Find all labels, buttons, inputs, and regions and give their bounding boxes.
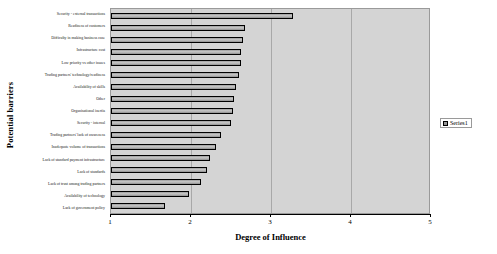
bar-row (111, 141, 429, 153)
bar[interactable] (111, 132, 221, 138)
category-label: Security - internal (18, 117, 108, 129)
x-axis-tick (430, 214, 431, 217)
category-label: Security - external transactions (18, 8, 108, 20)
category-label: Low priority vs other issues (18, 57, 108, 69)
bar-row (111, 164, 429, 176)
category-label-list: Security - external transactionsReadines… (18, 8, 108, 214)
bar-row (111, 176, 429, 188)
bar[interactable] (111, 37, 243, 43)
bar-row (111, 153, 429, 165)
y-axis-title-label: Potential barriers (5, 82, 15, 148)
x-axis-tick-label: 1 (100, 218, 120, 226)
y-axis-title: Potential barriers (2, 0, 18, 230)
plot-area (110, 8, 430, 214)
bar-row (111, 188, 429, 200)
category-label: Lack of standard payment infrastructure (18, 154, 108, 166)
bar[interactable] (111, 96, 234, 102)
category-label: Lack of government policy (18, 202, 108, 214)
category-label: Difficulty in making business case (18, 32, 108, 44)
category-label: Infrastructure cost (18, 44, 108, 56)
bar-row (111, 58, 429, 70)
category-label: Readiness of customers (18, 20, 108, 32)
bar-chart: Potential barriers Security - external t… (0, 0, 497, 254)
bars-layer (111, 9, 429, 213)
bar-row (111, 10, 429, 22)
legend-label: Series1 (450, 120, 468, 126)
bar-row (111, 46, 429, 58)
x-axis-tick-label: 2 (180, 218, 200, 226)
chart-legend[interactable]: Series1 (440, 118, 472, 128)
category-label: Organisational inertia (18, 105, 108, 117)
bar[interactable] (111, 144, 216, 150)
bar[interactable] (111, 155, 210, 161)
x-axis-tick-label: 5 (420, 218, 440, 226)
x-axis-tick-label: 3 (260, 218, 280, 226)
bar-row (111, 105, 429, 117)
bar[interactable] (111, 72, 239, 78)
category-label: Availability of technology (18, 190, 108, 202)
x-axis-tick (110, 214, 111, 217)
bar-row (111, 81, 429, 93)
bar-row (111, 22, 429, 34)
category-label: Lack of standards (18, 166, 108, 178)
category-label: Trading partners' lack of awareness (18, 129, 108, 141)
category-label: Lack of trust among trading partners (18, 178, 108, 190)
bar[interactable] (111, 13, 293, 19)
category-label: Inadequate volume of transactions (18, 141, 108, 153)
bar[interactable] (111, 167, 207, 173)
x-axis-tick (190, 214, 191, 217)
x-axis-tick (350, 214, 351, 217)
legend-swatch-icon (443, 121, 448, 126)
bar[interactable] (111, 49, 241, 55)
bar-row (111, 93, 429, 105)
x-axis-tick-label: 4 (340, 218, 360, 226)
bar[interactable] (111, 60, 241, 66)
bar-row (111, 200, 429, 212)
bar-row (111, 34, 429, 46)
category-label: Trading partners' technology/readiness (18, 69, 108, 81)
bar[interactable] (111, 84, 236, 90)
category-label: Availability of skills (18, 81, 108, 93)
bar-row (111, 129, 429, 141)
x-axis-tick (270, 214, 271, 217)
bar-row (111, 69, 429, 81)
bar[interactable] (111, 203, 165, 209)
bar[interactable] (111, 120, 231, 126)
bar-row (111, 117, 429, 129)
category-label: Other (18, 93, 108, 105)
x-axis-title: Degree of Influence (110, 232, 431, 242)
bar[interactable] (111, 25, 245, 31)
bar[interactable] (111, 191, 189, 197)
bar[interactable] (111, 179, 201, 185)
bar[interactable] (111, 108, 233, 114)
